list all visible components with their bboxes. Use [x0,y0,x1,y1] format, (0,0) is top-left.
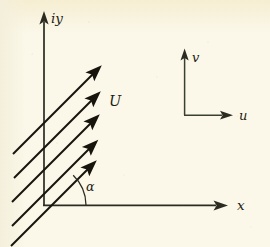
inset-uv-axes [181,49,234,120]
angle-arc [73,175,86,205]
figure-canvas: iy x U α v u [0,0,270,247]
imaginary-axis-label: iy [51,10,63,26]
flow-arrow [11,160,97,246]
inset-v-axis-label: v [192,50,200,65]
flow-arrow-group [11,65,102,246]
flow-speed-label: U [109,93,122,109]
real-axis-label: x [237,197,245,213]
flow-arrow [13,65,102,154]
uniform-flow-diagram: iy x U α v u [0,0,270,247]
angle-label: α [86,179,95,194]
main-axes [39,11,228,210]
inset-u-axis-label: u [239,108,247,123]
